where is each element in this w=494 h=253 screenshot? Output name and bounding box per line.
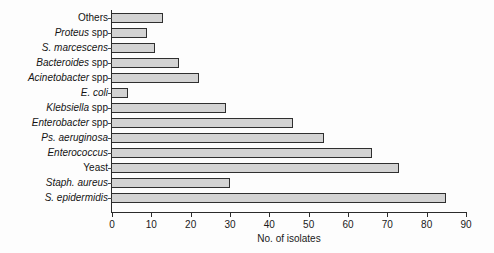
y-axis-tick-label: Acinetobacter spp (0, 72, 108, 83)
label-roman-part: spp (89, 27, 108, 38)
bar (112, 43, 155, 53)
x-axis-tick (269, 213, 270, 217)
y-axis-tick-label: Staph. aureus (0, 177, 108, 188)
bar (112, 58, 179, 68)
label-roman-part: spp (89, 72, 108, 83)
bar (112, 118, 293, 128)
x-axis-tick (348, 213, 349, 217)
x-axis-tick-label: 10 (136, 219, 166, 231)
y-axis-tick (108, 93, 112, 94)
y-axis-tick (108, 153, 112, 154)
y-axis-tick-label: E. coli (0, 87, 108, 98)
y-axis-tick (108, 48, 112, 49)
label-roman-part: spp (89, 102, 108, 113)
y-axis-tick (108, 198, 112, 199)
bar (112, 178, 230, 188)
y-axis-tick-label: Proteus spp (0, 27, 108, 38)
x-axis-tick (387, 213, 388, 217)
y-axis-tick-label: Ps. aeruginosa (0, 132, 108, 143)
x-axis-tick-label: 30 (215, 219, 245, 231)
x-axis-tick (309, 213, 310, 217)
x-axis-tick-label: 60 (333, 219, 363, 231)
y-axis-tick (108, 168, 112, 169)
bar (112, 28, 147, 38)
y-axis-tick-label: Yeast (0, 162, 108, 173)
x-axis-tick-label: 50 (294, 219, 324, 231)
x-axis-tick (427, 213, 428, 217)
x-axis-tick-label: 40 (254, 219, 284, 231)
x-axis-tick-label: 70 (372, 219, 402, 231)
bar (112, 163, 399, 173)
y-axis-tick-label: Enterobacter spp (0, 117, 108, 128)
label-roman-part: Others (78, 12, 108, 23)
x-axis-tick-label: 90 (451, 219, 481, 231)
x-axis-tick (191, 213, 192, 217)
y-axis-tick (108, 123, 112, 124)
x-axis-tick (230, 213, 231, 217)
bar (112, 133, 324, 143)
bar-chart-figure: OthersProteus sppS. marcescensBacteroide… (0, 0, 494, 253)
x-axis-tick (466, 213, 467, 217)
x-axis-tick-label: 80 (412, 219, 442, 231)
y-axis-category-labels: OthersProteus sppS. marcescensBacteroide… (0, 10, 108, 213)
bar (112, 193, 446, 203)
y-axis-tick (108, 33, 112, 34)
label-roman-part: Yeast (83, 162, 108, 173)
y-axis-tick (108, 18, 112, 19)
x-axis-tick (112, 213, 113, 217)
y-axis-tick (108, 138, 112, 139)
y-axis-tick-label: Enterococcus (0, 147, 108, 158)
label-roman-part: spp (89, 57, 108, 68)
x-axis-tick-label: 20 (176, 219, 206, 231)
y-axis-tick-label: S. epidermidis (0, 192, 108, 203)
y-axis-tick (108, 108, 112, 109)
y-axis-tick-label: Others (0, 12, 108, 23)
bar (112, 148, 372, 158)
bar (112, 88, 128, 98)
y-axis-tick (108, 78, 112, 79)
x-axis-tick (151, 213, 152, 217)
y-axis-tick-label: Bacteroides spp (0, 57, 108, 68)
label-roman-part: spp (89, 117, 108, 128)
y-axis-tick-label: Klebsiella spp (0, 102, 108, 113)
bar (112, 73, 199, 83)
plot-area (112, 10, 466, 213)
y-axis-tick-label: S. marcescens (0, 42, 108, 53)
bar (112, 103, 226, 113)
y-axis-tick (108, 63, 112, 64)
bar (112, 13, 163, 23)
x-axis-tick-label: 0 (97, 219, 127, 231)
x-axis-title: No. of isolates (112, 233, 466, 245)
y-axis-tick (108, 183, 112, 184)
